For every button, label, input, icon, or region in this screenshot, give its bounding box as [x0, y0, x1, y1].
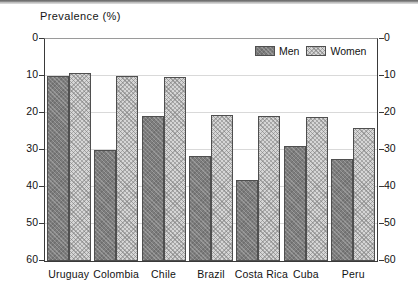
- bar-men-costa-rica[interactable]: [236, 180, 258, 261]
- bar-group: [284, 39, 328, 261]
- y-tick-label-left-20: 20: [4, 105, 38, 117]
- tick-mark-20: [39, 186, 44, 187]
- x-tick-label-costa-rica: Costa Rica: [235, 268, 282, 280]
- x-tick-label-colombia: Colombia: [92, 268, 139, 280]
- y-axis-right-labels: 6050403020100: [384, 38, 418, 262]
- bar-women-brazil[interactable]: [211, 115, 233, 261]
- y-tick-label-left-50: 50: [4, 216, 38, 228]
- bar-group: [236, 39, 280, 261]
- bar-women-cuba[interactable]: [306, 117, 328, 261]
- tick-mark-20: [379, 186, 384, 187]
- chart-legend: MenWomen: [252, 41, 369, 60]
- bars-layer: [45, 39, 377, 261]
- x-tick-label-chile: Chile: [140, 268, 187, 280]
- y-tick-label-right-10: 10: [384, 68, 418, 80]
- legend-label-women: Women: [330, 45, 366, 57]
- bar-group: [94, 39, 138, 261]
- y-tick-label-left-30: 30: [4, 142, 38, 154]
- chart-title: Prevalence (%): [40, 10, 121, 22]
- bar-men-chile[interactable]: [142, 116, 164, 261]
- bar-women-colombia[interactable]: [116, 76, 138, 261]
- bar-men-uruguay[interactable]: [47, 76, 69, 261]
- tick-mark-10: [379, 223, 384, 224]
- y-tick-label-right-60: 60: [384, 253, 418, 265]
- bar-group: [189, 39, 233, 261]
- y-tick-label-left-0: 0: [4, 31, 38, 43]
- bar-women-uruguay[interactable]: [69, 73, 91, 261]
- bar-women-costa-rica[interactable]: [258, 116, 280, 261]
- tick-mark-40: [39, 112, 44, 113]
- tick-mark-10: [39, 223, 44, 224]
- tick-mark-50: [379, 75, 384, 76]
- bar-group: [331, 39, 375, 261]
- y-axis-right-ticks: [379, 38, 384, 262]
- tick-mark-60: [39, 38, 44, 39]
- legend-label-men: Men: [279, 45, 299, 57]
- tick-mark-30: [379, 149, 384, 150]
- y-axis-left-labels: 6050403020100: [4, 38, 38, 262]
- bar-men-cuba[interactable]: [284, 146, 306, 261]
- bar-men-peru[interactable]: [331, 159, 353, 261]
- y-tick-label-right-40: 40: [384, 179, 418, 191]
- y-tick-label-right-20: 20: [384, 105, 418, 117]
- x-tick-label-peru: Peru: [330, 268, 377, 280]
- y-tick-label-left-60: 60: [4, 253, 38, 265]
- bar-women-chile[interactable]: [164, 77, 186, 261]
- legend-item-men[interactable]: Men: [255, 45, 299, 57]
- tick-mark-40: [379, 112, 384, 113]
- legend-swatch-men: [255, 46, 275, 56]
- bar-chart-figure: Prevalence (%) 6050403020100 60504030201…: [0, 0, 418, 296]
- y-tick-label-right-30: 30: [384, 142, 418, 154]
- tick-mark-0: [39, 260, 44, 261]
- x-tick-label-uruguay: Uruguay: [45, 268, 92, 280]
- y-tick-label-left-40: 40: [4, 179, 38, 191]
- bar-men-brazil[interactable]: [189, 156, 211, 261]
- tick-mark-30: [39, 149, 44, 150]
- legend-item-women[interactable]: Women: [306, 45, 366, 57]
- tick-mark-0: [379, 260, 384, 261]
- y-axis-left-ticks: [39, 38, 44, 262]
- y-tick-label-right-0: 0: [384, 31, 418, 43]
- legend-swatch-women: [306, 46, 326, 56]
- bar-group: [142, 39, 186, 261]
- tick-mark-50: [39, 75, 44, 76]
- x-tick-label-cuba: Cuba: [282, 268, 329, 280]
- x-axis-category-labels: UruguayColombiaChileBrazilCosta RicaCuba…: [45, 268, 377, 284]
- bar-men-colombia[interactable]: [94, 150, 116, 261]
- bar-group: [47, 39, 91, 261]
- y-tick-label-right-50: 50: [384, 216, 418, 228]
- x-tick-label-brazil: Brazil: [187, 268, 234, 280]
- y-tick-label-left-10: 10: [4, 68, 38, 80]
- tick-mark-60: [379, 38, 384, 39]
- bar-women-peru[interactable]: [353, 128, 375, 261]
